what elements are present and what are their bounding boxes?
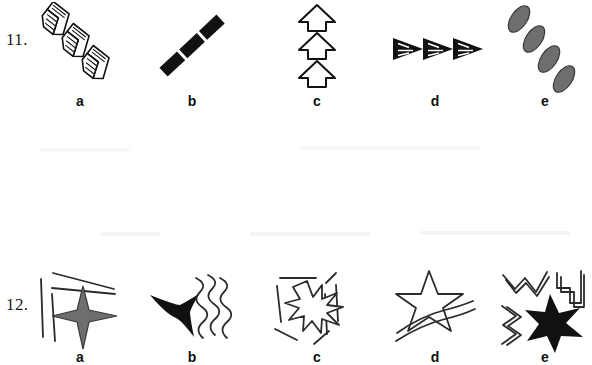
option-label-12c: c	[267, 349, 367, 365]
scan-artifact	[250, 232, 370, 236]
three-solid-bars-diagonal-icon	[142, 2, 242, 102]
option-label-11e: e	[495, 93, 592, 109]
three-striped-chevrons-diagonal-icon	[30, 2, 130, 102]
question-row-11: 11.	[0, 0, 592, 127]
option-12a[interactable]	[30, 261, 130, 361]
option-12d[interactable]	[385, 261, 485, 361]
option-11a[interactable]	[30, 2, 130, 102]
outlined-five-point-star-with-swooshes-icon	[385, 261, 485, 361]
option-12e[interactable]	[495, 261, 592, 361]
three-outlined-up-arrows-icon	[267, 2, 367, 102]
option-12c[interactable]	[267, 261, 367, 361]
scan-artifact	[420, 231, 570, 235]
four-gray-ellipses-chain-icon	[495, 2, 592, 102]
option-12b[interactable]	[142, 261, 242, 361]
option-11e[interactable]	[495, 2, 592, 102]
option-label-11c: c	[267, 93, 367, 109]
three-striped-pennants-icon	[385, 2, 485, 102]
option-11b[interactable]	[142, 2, 242, 102]
black-six-point-star-with-zigzags-icon	[495, 261, 592, 361]
option-label-11b: b	[142, 93, 242, 109]
scan-artifact	[40, 148, 130, 152]
gray-four-point-star-with-straight-lines-icon	[30, 261, 130, 361]
scan-artifact	[100, 232, 160, 236]
option-11c[interactable]	[267, 2, 367, 102]
scan-artifact	[300, 146, 480, 150]
option-label-11d: d	[385, 93, 485, 109]
option-11d[interactable]	[385, 2, 485, 102]
option-label-12d: d	[385, 349, 485, 365]
outlined-starburst-with-rays-icon	[267, 261, 367, 361]
black-three-point-star-with-wavy-lines-icon	[142, 261, 242, 361]
option-label-12b: b	[142, 349, 242, 365]
option-label-12a: a	[30, 349, 130, 365]
option-label-12e: e	[495, 349, 592, 365]
option-label-11a: a	[30, 93, 130, 109]
